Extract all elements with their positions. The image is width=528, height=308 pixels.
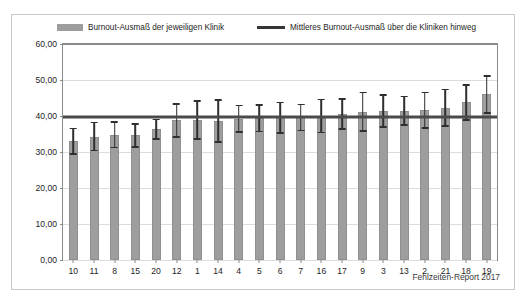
bar xyxy=(110,135,119,260)
y-axis-tick-label: 10,00 xyxy=(35,219,57,229)
x-tick-mark xyxy=(176,260,177,263)
bar xyxy=(420,110,429,260)
bar-slot: 1 xyxy=(187,44,208,260)
chart-figure: Burnout-Ausmaß der jeweiligen Klinik Mit… xyxy=(11,14,515,290)
x-axis-tick-label: 15 xyxy=(131,266,141,276)
error-bar xyxy=(176,103,178,138)
bar-slot: 16 xyxy=(311,44,332,260)
x-axis-tick-label: 8 xyxy=(112,266,117,276)
bar xyxy=(172,120,181,260)
bar-slot: 7 xyxy=(290,44,311,260)
bar xyxy=(193,120,202,260)
bar xyxy=(379,111,388,260)
x-axis-tick-label: 3 xyxy=(381,266,386,276)
bar xyxy=(90,137,99,260)
error-bar xyxy=(197,100,199,140)
x-axis-tick-label: 11 xyxy=(90,266,99,276)
bar-group: 101181520121144567161793132211819 xyxy=(63,44,497,260)
x-axis-tick-label: 5 xyxy=(257,266,262,276)
bar-slot: 13 xyxy=(394,44,415,260)
bar-slot: 15 xyxy=(125,44,146,260)
x-axis-tick-label: 9 xyxy=(360,266,365,276)
y-axis-tick-label: 30,00 xyxy=(35,147,57,157)
legend-item-bars: Burnout-Ausmaß der jeweiligen Klinik xyxy=(57,23,224,32)
x-axis-tick-label: 16 xyxy=(317,266,327,276)
x-axis-tick-label: 4 xyxy=(236,266,241,276)
bar-slot: 8 xyxy=(104,44,125,260)
x-tick-mark xyxy=(259,260,260,263)
y-axis-tick-label: 40,00 xyxy=(35,111,57,121)
y-axis-tick-label: 0,00 xyxy=(40,255,57,265)
x-tick-mark xyxy=(383,260,384,263)
x-axis-tick-label: 2 xyxy=(422,266,427,276)
error-bar xyxy=(155,119,157,140)
bar xyxy=(338,114,347,260)
error-bar xyxy=(341,98,343,130)
error-bar xyxy=(238,105,240,133)
x-tick-mark xyxy=(486,260,487,263)
bar xyxy=(441,108,450,260)
bar-slot: 6 xyxy=(270,44,291,260)
x-tick-mark xyxy=(197,260,198,263)
error-bar xyxy=(424,92,426,129)
plot-area: 0,0010,0020,0030,0040,0050,0060,00 10118… xyxy=(62,43,498,261)
bar xyxy=(400,111,409,260)
bar-slot: 17 xyxy=(332,44,353,260)
x-tick-mark xyxy=(280,260,281,263)
x-axis-tick-label: 13 xyxy=(399,266,409,276)
x-axis-tick-label: 14 xyxy=(213,266,223,276)
x-axis-tick-label: 10 xyxy=(69,266,79,276)
error-bar xyxy=(403,96,405,126)
error-bar xyxy=(445,89,447,127)
error-bar xyxy=(73,128,75,155)
x-tick-mark xyxy=(114,260,115,263)
x-tick-mark xyxy=(445,260,446,263)
x-tick-mark xyxy=(321,260,322,263)
x-axis-tick-label: 21 xyxy=(441,266,451,276)
x-axis-tick-label: 1 xyxy=(195,266,200,276)
bar xyxy=(317,116,326,260)
x-tick-mark xyxy=(404,260,405,263)
x-tick-mark xyxy=(135,260,136,263)
bar-slot: 4 xyxy=(228,44,249,260)
x-axis-tick-label: 12 xyxy=(172,266,182,276)
bar xyxy=(482,94,491,260)
bar xyxy=(462,102,471,260)
bar-slot: 20 xyxy=(146,44,167,260)
x-tick-mark xyxy=(238,260,239,263)
error-bar xyxy=(486,75,488,114)
bar xyxy=(234,119,243,260)
error-bar xyxy=(383,94,385,127)
bar xyxy=(69,141,78,260)
error-bar xyxy=(217,99,219,142)
bar-swatch-icon xyxy=(57,24,83,31)
y-axis-tick-label: 50,00 xyxy=(35,75,57,85)
y-axis-tick-label: 20,00 xyxy=(35,183,57,193)
x-tick-mark xyxy=(466,260,467,263)
error-bar xyxy=(114,121,116,148)
bar-slot: 10 xyxy=(63,44,84,260)
bar-slot: 18 xyxy=(456,44,477,260)
bar xyxy=(276,118,285,260)
bar xyxy=(358,112,367,260)
bar xyxy=(152,129,161,260)
bar xyxy=(296,117,305,260)
x-axis-tick-label: 18 xyxy=(461,266,471,276)
x-tick-mark xyxy=(94,260,95,263)
bar-slot: 19 xyxy=(476,44,497,260)
bar-slot: 3 xyxy=(373,44,394,260)
bar-slot: 9 xyxy=(352,44,373,260)
error-bar xyxy=(362,92,364,132)
x-axis-tick-label: 7 xyxy=(298,266,303,276)
bar-slot: 12 xyxy=(166,44,187,260)
x-tick-mark xyxy=(362,260,363,263)
x-tick-mark xyxy=(73,260,74,263)
bar-slot: 2 xyxy=(414,44,435,260)
legend-item-mean: Mittleres Burnout-Ausmaß über die Klinik… xyxy=(257,23,476,32)
bar-slot: 5 xyxy=(249,44,270,260)
x-axis-tick-label: 20 xyxy=(151,266,161,276)
y-axis-tick-label: 60,00 xyxy=(35,39,57,49)
y-tick-mark xyxy=(60,260,63,261)
x-axis-tick-label: 17 xyxy=(337,266,347,276)
bar xyxy=(131,135,140,260)
